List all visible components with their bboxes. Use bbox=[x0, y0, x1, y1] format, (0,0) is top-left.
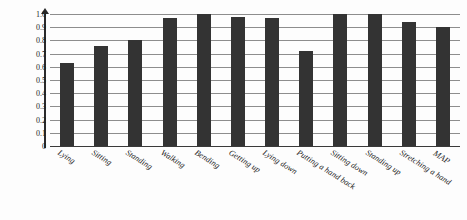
x-axis-tick-label: Putting a hand back bbox=[295, 148, 357, 191]
x-axis-tick-label: Walking bbox=[159, 148, 187, 170]
bar bbox=[299, 51, 313, 146]
bars-series bbox=[50, 14, 460, 146]
y-axis-tick-label: 0.9 bbox=[36, 23, 46, 32]
bar bbox=[333, 14, 347, 146]
x-axis-tick-label: Standing bbox=[125, 148, 155, 171]
y-axis-tick-label: 0.2 bbox=[36, 115, 46, 124]
bar bbox=[436, 27, 450, 146]
y-axis-tick-label: 0.3 bbox=[36, 102, 46, 111]
y-axis-tick-label: 0.4 bbox=[36, 89, 46, 98]
y-axis-tick-label: 0.7 bbox=[36, 49, 46, 58]
x-axis-tick-label: Lying down bbox=[261, 148, 299, 176]
bar bbox=[128, 40, 142, 146]
x-axis-baseline: 0 bbox=[50, 146, 460, 147]
y-axis-tick-label: 0.6 bbox=[36, 62, 46, 71]
bar bbox=[60, 63, 74, 146]
bar bbox=[402, 22, 416, 146]
bar bbox=[197, 14, 211, 146]
x-axis-tick-labels: LyingSittingStandingWalkingBendingGettin… bbox=[50, 148, 467, 220]
x-axis-tick-label: MAP bbox=[432, 148, 452, 166]
y-axis-tick-label: 1.0 bbox=[36, 10, 46, 19]
bar bbox=[94, 46, 108, 146]
plot-area: 1.00.90.80.70.60.50.40.30.20.10 bbox=[50, 14, 460, 146]
y-axis-tick-label: 0.8 bbox=[36, 36, 46, 45]
x-axis-tick-label: Bending bbox=[193, 148, 221, 170]
bar bbox=[163, 18, 177, 146]
x-axis-tick-label: Sitting bbox=[90, 148, 113, 167]
bar bbox=[368, 14, 382, 146]
y-axis-tick-label: 0.5 bbox=[36, 76, 46, 85]
x-axis-tick-label: Getting up bbox=[227, 148, 262, 174]
bar bbox=[231, 17, 245, 146]
x-axis-tick-label: Standing up bbox=[364, 148, 403, 177]
x-axis-tick-label: Lying bbox=[56, 148, 77, 166]
bar bbox=[265, 18, 279, 146]
y-axis-tick-label: 0.1 bbox=[36, 128, 46, 137]
y-axis-tick-label: 0 bbox=[42, 142, 46, 151]
bar-chart-figure: (AP: Average Precision) 1.00.90.80.70.60… bbox=[0, 0, 467, 220]
